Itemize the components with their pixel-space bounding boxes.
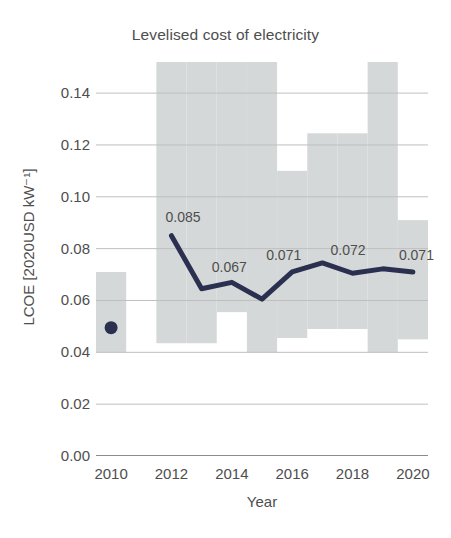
data-point-marker <box>105 321 118 334</box>
plot-area <box>96 62 428 456</box>
y-axis-title: LCOE [2020USD kW⁻¹] <box>20 132 38 362</box>
band-segment <box>96 272 126 352</box>
band-segment <box>187 62 217 343</box>
chart-figure: Levelised cost of electricity 0.000.020.… <box>0 0 451 538</box>
y-axis-title-wrapper: LCOE [2020USD kW⁻¹] <box>0 0 1 1</box>
x-tick-label: 2016 <box>267 466 317 481</box>
band-segment <box>277 171 307 338</box>
x-tick-label: 2014 <box>207 466 257 481</box>
x-tick-label: 2020 <box>388 466 438 481</box>
lcoe-marker-points <box>105 321 118 334</box>
x-axis-title: Year <box>96 493 428 510</box>
x-tick-label: 2012 <box>146 466 196 481</box>
band-segment <box>307 133 337 329</box>
x-tick-label: 2018 <box>328 466 378 481</box>
band-segment <box>156 62 186 343</box>
band-segment <box>368 62 398 352</box>
x-axis-tick-labels: 201020122014201620182020 <box>96 464 428 488</box>
x-tick-label: 2010 <box>86 466 136 481</box>
y-tick-label: 0.00 <box>28 448 90 463</box>
y-tick-label: 0.02 <box>28 396 90 411</box>
uncertainty-band <box>96 62 428 352</box>
chart-canvas <box>96 62 428 456</box>
chart-title: Levelised cost of electricity <box>0 26 451 44</box>
band-segment <box>217 62 247 312</box>
band-segment <box>398 220 428 339</box>
band-segment <box>337 133 367 329</box>
y-tick-label: 0.14 <box>28 85 90 100</box>
band-segment <box>247 62 277 352</box>
